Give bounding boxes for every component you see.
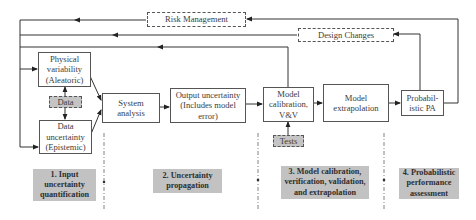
data-uncertainty-box: Data uncertainty (Epistemic) xyxy=(39,120,92,154)
output-uncertainty-line2: (Includes model xyxy=(176,100,241,110)
output-uncertainty-line1: Output uncertainty xyxy=(176,90,241,100)
model-extrapolation-line2: extrapolation xyxy=(333,103,378,113)
design-changes-box: Design Changes xyxy=(298,28,394,42)
stage-1-label: 1. Input uncertainty quantification xyxy=(33,169,96,201)
tests-box: Tests xyxy=(273,135,304,147)
probabilistic-pa-line2: istic PA xyxy=(407,103,439,113)
physical-variability-line2: variability xyxy=(46,64,84,74)
stage-2-label: 2. Uncertainty propagation xyxy=(153,169,222,193)
stage-4-line3: assessment xyxy=(403,189,456,199)
system-analysis-line2: analysis xyxy=(117,108,145,118)
physical-variability-box: Physical variability (Aleatoric) xyxy=(38,52,91,87)
stage-1-line3: quantification xyxy=(40,190,89,200)
stage-1-line2: uncertainty xyxy=(40,180,89,190)
data-uncertainty-line2: uncertainty xyxy=(45,132,85,142)
model-calibration-line1: Model xyxy=(269,89,308,99)
model-extrapolation-line1: Model xyxy=(333,93,378,103)
stage-4-line1: 4. Probabilistic xyxy=(403,168,456,178)
system-analysis-box: System analysis xyxy=(102,93,160,123)
data-uncertainty-line3: (Epistemic) xyxy=(45,142,85,152)
model-calibration-line2: calibration, xyxy=(269,99,308,109)
output-uncertainty-line3: error) xyxy=(176,111,241,121)
stage-2-line2: propagation xyxy=(162,181,212,191)
design-changes-label: Design Changes xyxy=(318,30,374,40)
tests-label: Tests xyxy=(280,136,298,146)
probabilistic-pa-line1: Probabil- xyxy=(407,93,439,103)
model-extrapolation-box: Model extrapolation xyxy=(323,84,389,122)
stage-4-label: 4. Probabilistic performance assessment xyxy=(399,168,459,199)
physical-variability-line3: (Aleatoric) xyxy=(46,75,84,85)
output-uncertainty-box: Output uncertainty (Includes model error… xyxy=(170,88,246,123)
stage-3-label: 3. Model calibration, verification, vali… xyxy=(281,166,369,199)
physical-variability-line1: Physical xyxy=(46,54,84,64)
model-calibration-line3: V&V xyxy=(269,110,308,120)
stage-2-line1: 2. Uncertainty xyxy=(162,171,212,181)
data-input-label: Data xyxy=(57,97,73,107)
stage-3-line2: verification, validation, xyxy=(284,177,365,187)
probabilistic-pa-box: Probabil- istic PA xyxy=(401,90,444,116)
risk-management-label: Risk Management xyxy=(165,14,228,24)
data-uncertainty-line1: Data xyxy=(45,121,85,131)
data-input-box: Data xyxy=(49,96,82,108)
stage-4-line2: performance xyxy=(403,178,456,188)
system-analysis-line1: System xyxy=(117,98,145,108)
stage-3-line3: and extrapolation xyxy=(284,188,365,198)
stage-3-line1: 3. Model calibration, xyxy=(284,167,365,177)
stage-1-line1: 1. Input xyxy=(40,170,89,180)
risk-management-box: Risk Management xyxy=(147,12,246,27)
model-calibration-box: Model calibration, V&V xyxy=(263,87,314,122)
